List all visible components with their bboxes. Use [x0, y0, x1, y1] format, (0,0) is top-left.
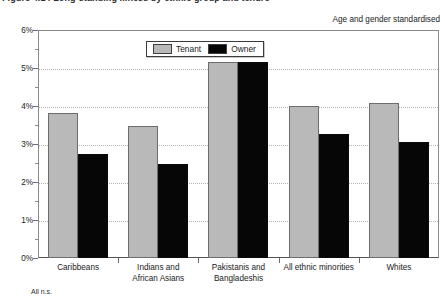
bar-group: [38, 30, 118, 258]
y-axis-ticks: [0, 30, 40, 258]
legend-label: Tenant: [176, 44, 201, 54]
legend-entry: Owner: [208, 44, 256, 54]
legend-swatch-tenant: [153, 44, 172, 54]
bar-group: [279, 30, 359, 258]
x-axis-category-label: Whites: [359, 263, 439, 274]
bar-group: [118, 30, 198, 258]
bar-owner: [238, 62, 268, 258]
bar-tenant: [208, 62, 238, 258]
bars-layer: [38, 30, 439, 258]
x-axis-label-line: All ethnic minorities: [279, 263, 359, 274]
x-axis-label-line: Whites: [359, 263, 439, 274]
bar-owner: [399, 142, 429, 258]
x-axis-category-label: Indians andAfrican Asians: [118, 263, 198, 284]
figure-caption-strip: Figure 4.14 Long-standing illness by eth…: [0, 0, 445, 11]
x-axis-label-line: Caribbeans: [38, 263, 118, 274]
bar-group: [359, 30, 439, 258]
bar-tenant: [48, 113, 78, 258]
figure-caption: Figure 4.14 Long-standing illness by eth…: [2, 0, 270, 3]
x-axis-label-line: Indians and: [118, 263, 198, 274]
x-axis-category-label: Pakistanis andBangladeshis: [198, 263, 278, 284]
x-axis-labels: CaribbeansIndians andAfrican AsiansPakis…: [38, 263, 439, 291]
x-axis-label-line: Bangladeshis: [198, 274, 278, 285]
bar-owner: [319, 134, 349, 258]
x-axis-category-label: Caribbeans: [38, 263, 118, 274]
bar-tenant: [128, 126, 158, 258]
figure-footnote: All n.s.: [31, 288, 52, 295]
bar-tenant: [289, 106, 319, 258]
legend-entry: Tenant: [153, 44, 201, 54]
x-axis-label-line: African Asians: [118, 274, 198, 285]
legend-swatch-owner: [208, 44, 227, 54]
bar-group: [198, 30, 278, 258]
x-axis-category-label: All ethnic minorities: [279, 263, 359, 274]
bar-owner: [158, 164, 188, 258]
x-axis-label-line: Pakistanis and: [198, 263, 278, 274]
chart-legend: TenantOwner: [146, 41, 264, 57]
bar-owner: [78, 154, 108, 258]
legend-label: Owner: [231, 44, 256, 54]
standardisation-note: Age and gender standardised: [333, 15, 440, 24]
bar-tenant: [369, 103, 399, 258]
